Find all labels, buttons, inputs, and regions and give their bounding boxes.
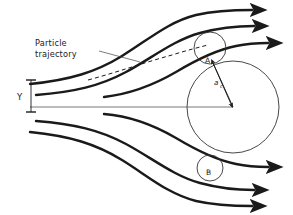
particle-trajectory-label-line2: trajectory [35,49,77,59]
label-leader-line [99,51,140,62]
streamline-lower-3 [30,132,252,206]
point-a-label: A [205,56,211,65]
streamline-lower-1 [104,114,268,167]
particle-trajectory-label-line1: Particle [35,38,67,48]
radius-subscript-label: c [220,83,223,89]
flow-diagram: Particle trajectory A B a c Y [0,0,293,215]
point-b-label: B [206,168,211,177]
offset-y-label: Y [16,92,23,102]
streamlines-lower [30,114,268,206]
particle-trajectory-dashed [88,45,208,80]
radius-symbol-label: a [214,78,218,87]
streamline-lower-2 [36,121,254,190]
